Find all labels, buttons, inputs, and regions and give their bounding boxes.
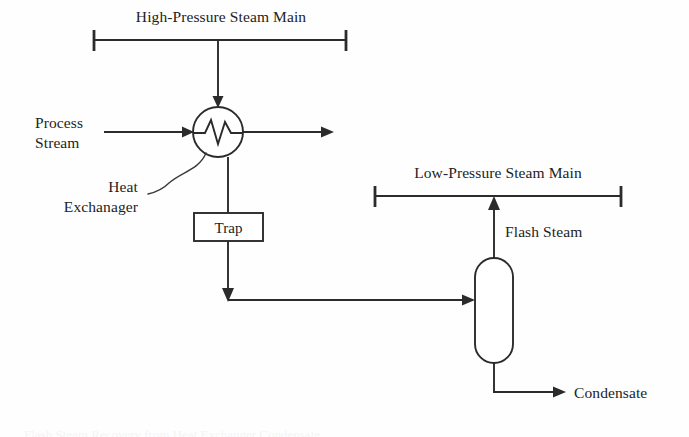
hp-steam-main-label: High-Pressure Steam Main [136, 8, 306, 25]
flash-vessel-body [475, 258, 513, 363]
flash-steam-riser-group: Flash Steam [488, 196, 582, 258]
heat-exchanger-circle [193, 107, 243, 157]
condensate-arrowhead [553, 387, 566, 398]
heat-exchanger-leader-line [148, 153, 206, 194]
process-stream-label-line1: Process [35, 114, 83, 131]
process-stream-inlet-group: Process Stream [35, 114, 194, 151]
vessel-inlet-arrowhead [462, 295, 475, 306]
heat-exchanger-callout: Heat Exchanager [64, 153, 206, 215]
trap-outlet-to-vessel-group [222, 241, 475, 306]
high-pressure-steam-main-group: High-Pressure Steam Main [93, 8, 347, 51]
flash-steam-label: Flash Steam [505, 223, 582, 240]
process-stream-outlet-group [243, 127, 334, 138]
steam-trap-group: Trap [194, 213, 263, 241]
heat-exchanger-symbol [193, 107, 243, 157]
heat-exchanger-label-line1: Heat [108, 178, 138, 195]
process-stream-outlet-arrowhead [321, 127, 334, 138]
low-pressure-steam-main-group: Low-Pressure Steam Main [374, 164, 622, 207]
steam-trap-label: Trap [215, 220, 243, 236]
cropped-caption-remnant: Flash Steam Recovery from Heat Exchanger… [24, 428, 354, 437]
flash-vessel-group [475, 258, 513, 363]
process-flow-diagram: High-Pressure Steam Main Process Stream [0, 0, 689, 437]
lp-steam-main-label: Low-Pressure Steam Main [414, 164, 582, 181]
condensate-outlet-group: Condensate [493, 363, 647, 401]
diagram-canvas: High-Pressure Steam Main Process Stream [0, 0, 689, 437]
heat-exchanger-label-line2: Exchanager [64, 198, 139, 215]
flash-steam-arrowhead [488, 196, 500, 210]
process-stream-label-line2: Stream [35, 134, 80, 151]
hp-steam-drop-line-group [213, 40, 224, 108]
condensate-label: Condensate [574, 384, 647, 401]
